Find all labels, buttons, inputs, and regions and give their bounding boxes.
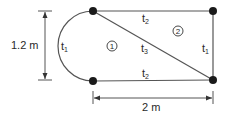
label-right-t: t1	[202, 42, 209, 55]
node-top-right	[209, 7, 217, 15]
label-bottom-t: t2	[142, 67, 149, 80]
node-bottom-right	[209, 76, 217, 84]
arrow-right-icon	[206, 96, 212, 101]
cell-1-label: 1	[110, 42, 115, 51]
label-diagonal-t: t3	[141, 42, 148, 55]
arrow-up-icon	[43, 12, 48, 18]
node-top-left	[89, 7, 97, 15]
arrow-down-icon	[43, 73, 48, 79]
cell-2-label: 2	[176, 27, 181, 36]
cell-section-diagram: 1.2 m 2 m t1 t2 t3 t2 t1 1 2	[0, 0, 232, 115]
label-left-arc-t: t1	[61, 40, 68, 53]
node-bottom-left	[89, 77, 97, 85]
label-top-t: t2	[142, 12, 149, 25]
bottom-wall	[93, 80, 213, 81]
height-dimension-label: 1.2 m	[11, 39, 39, 51]
width-dimension-label: 2 m	[142, 101, 160, 113]
arrow-left-icon	[94, 96, 100, 101]
